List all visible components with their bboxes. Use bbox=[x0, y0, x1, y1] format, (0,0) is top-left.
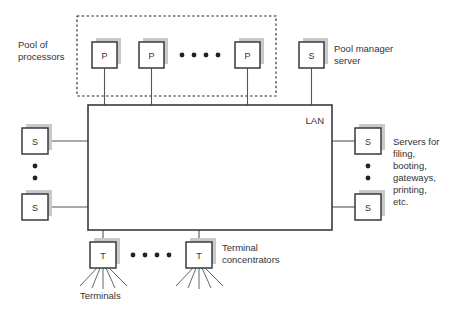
servers-description-line4: gateways, bbox=[393, 172, 436, 183]
ellipsis-dot bbox=[33, 176, 38, 181]
terminal-line bbox=[92, 268, 100, 288]
ellipsis-dot bbox=[180, 53, 185, 58]
servers-description-line6: etc. bbox=[393, 196, 408, 207]
ellipsis-dot bbox=[366, 176, 371, 181]
processors-ellipsis bbox=[180, 53, 221, 58]
terminals-label: Terminals bbox=[80, 290, 121, 301]
right-server-node-2[interactable]: S bbox=[355, 190, 385, 220]
servers-description-line3: booting, bbox=[393, 160, 427, 171]
ellipsis-dot bbox=[33, 164, 38, 169]
ellipsis-dot bbox=[167, 253, 172, 258]
left-servers-ellipsis bbox=[33, 164, 38, 181]
left-server-node-1[interactable]: S bbox=[22, 124, 52, 154]
terminal-concentrator-node-2[interactable]: T bbox=[186, 238, 216, 268]
terminal-concentrators-label: Terminal concentrators bbox=[222, 242, 280, 265]
terminal-line bbox=[202, 268, 211, 288]
node-label: T bbox=[100, 251, 106, 261]
terminal-line bbox=[80, 268, 97, 286]
right-server-node-1[interactable]: S bbox=[355, 124, 385, 154]
ellipsis-dot bbox=[143, 253, 148, 258]
node-label: T bbox=[196, 251, 202, 261]
terminals-ellipsis bbox=[131, 253, 172, 258]
node-label: S bbox=[365, 137, 371, 147]
terminal-line bbox=[205, 268, 223, 286]
terminal-concentrators-line1: Terminal bbox=[222, 242, 258, 253]
ellipsis-dot bbox=[155, 253, 160, 258]
pool-of-processors-label-line1: Pool of bbox=[18, 39, 48, 50]
servers-description-line1: Servers for bbox=[393, 136, 439, 147]
lan-label: LAN bbox=[306, 115, 325, 126]
ellipsis-dot bbox=[131, 253, 136, 258]
pool-manager-server-label: Pool manager server bbox=[334, 43, 393, 66]
servers-description-label: Servers for filing, booting, gateways, p… bbox=[393, 136, 439, 207]
terminal-concentrator-node-1[interactable]: T bbox=[90, 238, 120, 268]
left-server-node-2[interactable]: S bbox=[22, 190, 52, 220]
terminal-line bbox=[106, 268, 115, 288]
node-label: S bbox=[32, 203, 38, 213]
processor-node-2[interactable]: P bbox=[139, 38, 168, 68]
node-label: P bbox=[101, 51, 107, 61]
servers-description-line2: filing, bbox=[393, 148, 415, 159]
ellipsis-dot bbox=[204, 53, 209, 58]
pool-of-processors-label-line2: processors bbox=[18, 51, 65, 62]
terminal-lines-group-2 bbox=[176, 268, 223, 289]
node-label: P bbox=[148, 51, 154, 61]
right-servers-ellipsis bbox=[366, 164, 371, 181]
ellipsis-dot bbox=[366, 164, 371, 169]
processor-node-3[interactable]: P bbox=[235, 38, 264, 68]
pool-manager-server-label-line2: server bbox=[334, 55, 360, 66]
terminal-lines-group-1 bbox=[80, 268, 127, 289]
terminal-line bbox=[176, 268, 193, 286]
processor-node-1[interactable]: P bbox=[92, 38, 121, 68]
diagram-svg: LAN P P bbox=[0, 0, 469, 310]
pool-manager-server-label-line1: Pool manager bbox=[334, 43, 393, 54]
terminal-line bbox=[109, 268, 127, 286]
ellipsis-dot bbox=[216, 53, 221, 58]
servers-description-line5: printing, bbox=[393, 184, 427, 195]
terminal-line bbox=[188, 268, 196, 288]
pool-of-processors-label: Pool of processors bbox=[18, 39, 65, 62]
node-label: S bbox=[308, 51, 314, 61]
terminal-concentrators-line2: concentrators bbox=[222, 254, 280, 265]
node-label: S bbox=[32, 137, 38, 147]
diagram-canvas: LAN P P bbox=[0, 0, 469, 310]
lan-box[interactable] bbox=[88, 105, 332, 230]
node-label: S bbox=[365, 203, 371, 213]
ellipsis-dot bbox=[192, 53, 197, 58]
node-label: P bbox=[244, 51, 250, 61]
pool-manager-server-node[interactable]: S bbox=[299, 38, 328, 68]
